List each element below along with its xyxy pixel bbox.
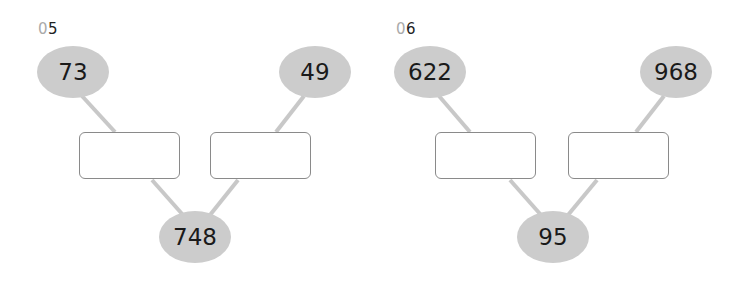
- answer-box-left[interactable]: [435, 132, 536, 179]
- bottom-oval: 95: [517, 211, 589, 263]
- number-prefix: 0: [38, 20, 48, 38]
- number-prefix: 0: [396, 20, 406, 38]
- top-right-oval: 49: [279, 46, 351, 98]
- number-suffix: 5: [48, 20, 58, 38]
- top-left-oval: 73: [37, 46, 109, 98]
- problem-number: 06: [396, 20, 416, 38]
- top-left-oval: 622: [394, 46, 466, 98]
- answer-box-left[interactable]: [79, 132, 180, 179]
- answer-box-right[interactable]: [210, 132, 311, 179]
- bottom-oval: 748: [159, 211, 231, 263]
- answer-box-right[interactable]: [568, 132, 669, 179]
- problem-06: 06 622 968 95: [371, 0, 742, 281]
- top-right-oval: 968: [640, 46, 712, 98]
- number-suffix: 6: [406, 20, 416, 38]
- problem-number: 05: [38, 20, 58, 38]
- problem-05: 05 73 49 748: [0, 0, 371, 281]
